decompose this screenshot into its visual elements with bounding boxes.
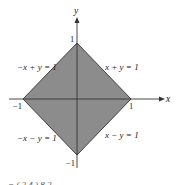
edge-label-top-right: x + y = 1 [104, 62, 139, 72]
edge-label-bottom-left: −x − y = 1 [17, 133, 57, 143]
y-axis-label: y [73, 6, 79, 16]
y-tick-pos: 1 [70, 34, 74, 44]
x-tick-pos: 1 [129, 101, 133, 111]
x-tick-neg: −1 [13, 101, 22, 111]
edge-label-top-left: −x + y = 1 [17, 62, 57, 72]
edge-label-bottom-right: x − y = 1 [104, 130, 139, 140]
x-axis-arrow-icon [159, 97, 165, 102]
y-tick-neg: −1 [66, 158, 75, 168]
x-axis-label: x [165, 94, 171, 104]
y-axis-arrow-icon [75, 17, 80, 23]
cut-off-text-line: = ( 2 4 ) 8 2 [8, 180, 52, 185]
diamond-region-diagram: x y 1 −1 1 −1 −x + y = 1 x + y = 1 −x − … [0, 0, 185, 185]
